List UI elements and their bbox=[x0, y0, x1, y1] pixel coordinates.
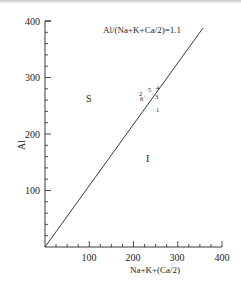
point-label-4: 4 bbox=[156, 84, 160, 91]
x-tick-label: 200 bbox=[126, 252, 141, 263]
reference-line-annotation: Al/(Na+K+Ca/2)=1.1 bbox=[103, 25, 181, 35]
y-tick-label: 200 bbox=[25, 129, 40, 140]
y-axis-ticks bbox=[45, 21, 51, 236]
point-label-3: 3 bbox=[155, 93, 158, 100]
x-axis-ticks bbox=[56, 241, 222, 247]
data-points: 2 6 + 5 + 4 3 + 1 bbox=[139, 84, 160, 113]
y-tick-label: 400 bbox=[25, 16, 40, 27]
reference-line bbox=[45, 28, 203, 247]
svg-text:+: + bbox=[143, 94, 146, 99]
region-label-s: S bbox=[86, 93, 92, 104]
x-tick-label: 300 bbox=[170, 252, 185, 263]
y-axis-label: Al bbox=[16, 140, 27, 150]
x-axis-label: Na+K+(Ca/2) bbox=[130, 265, 180, 275]
x-tick-label: 400 bbox=[215, 252, 230, 263]
point-label-1: 1 bbox=[156, 106, 159, 113]
chart-canvas: 400 300 200 100 100 200 300 400 Na+K+(Ca… bbox=[0, 0, 241, 283]
svg-text:+: + bbox=[151, 92, 154, 97]
y-tick-label: 100 bbox=[25, 185, 40, 196]
x-tick-label: 100 bbox=[82, 252, 97, 263]
svg-text:+: + bbox=[152, 108, 155, 113]
region-label-i: I bbox=[146, 153, 149, 164]
y-tick-label: 300 bbox=[25, 72, 40, 83]
